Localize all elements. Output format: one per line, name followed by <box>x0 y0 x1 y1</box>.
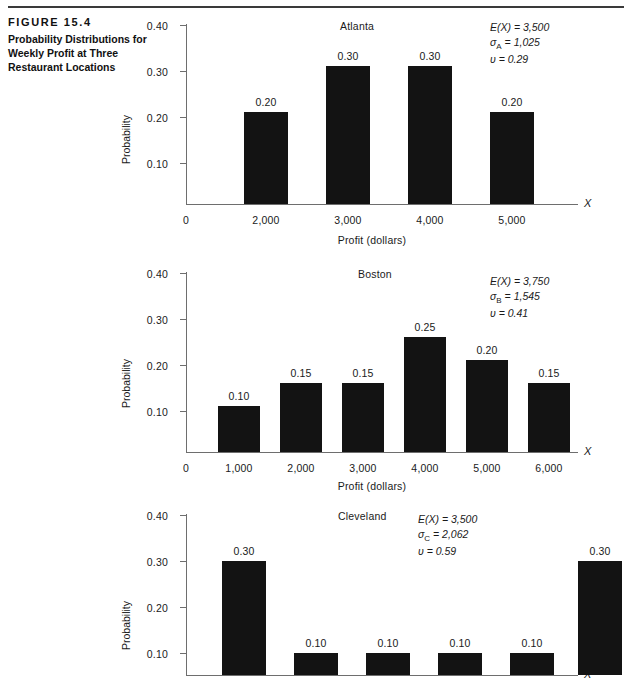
y-tick-020-cleveland: 0.20 <box>134 602 168 614</box>
y-tick-mark-010-boston <box>180 411 186 412</box>
x-tick-boston-1: 2,000 <box>277 462 325 474</box>
chart-title-atlanta: Atlanta <box>340 20 374 32</box>
x-axis-variable-boston: X <box>584 445 591 457</box>
stats-annotation-boston: E(X) = 3,750 σB = 1,545 υ = 0.41 <box>490 274 549 321</box>
x-tick-boston-2: 3,000 <box>339 462 387 474</box>
bar-value-atlanta-1: 0.30 <box>326 50 370 62</box>
bar-value-boston-1: 0.15 <box>280 367 322 379</box>
y-tick-010-atlanta: 0.10 <box>134 158 168 170</box>
x-tick-boston-5: 6,000 <box>525 462 573 474</box>
x-axis-title-atlanta: Profit (dollars) <box>272 234 472 246</box>
bar-cleveland-1 <box>294 653 338 675</box>
y-tick-mark-040-boston <box>180 273 186 274</box>
bar-cleveland-3 <box>438 653 482 675</box>
y-tick-020-boston: 0.20 <box>134 360 168 372</box>
bar-value-cleveland-5: 0.30 <box>578 545 622 557</box>
y-tick-mark-040-cleveland <box>180 515 186 516</box>
bar-cleveland-0 <box>222 561 266 675</box>
cv-boston: υ = 0.41 <box>490 306 549 321</box>
bar-cleveland-4 <box>510 653 554 675</box>
y-axis-title-atlanta: Probability <box>120 115 132 164</box>
x-tick-boston-0: 1,000 <box>215 462 263 474</box>
bar-cleveland-2 <box>366 653 410 675</box>
bar-value-boston-3: 0.25 <box>404 321 446 333</box>
plot-area-boston: Boston E(X) = 3,750 σB = 1,545 υ = 0.41 … <box>112 256 632 494</box>
bar-boston-2000 <box>280 383 322 452</box>
chart-panel-atlanta: Atlanta E(X) = 3,500 σA = 1,025 υ = 0.29… <box>112 14 632 254</box>
x-tick-boston-3: 4,000 <box>401 462 449 474</box>
y-tick-010-boston: 0.10 <box>134 406 168 418</box>
stats-annotation-atlanta: E(X) = 3,500 σA = 1,025 υ = 0.29 <box>490 20 549 67</box>
y-axis-line-cleveland <box>186 514 187 676</box>
expected-value-boston: E(X) = 3,750 <box>490 274 549 289</box>
bar-value-cleveland-0: 0.30 <box>222 545 266 557</box>
sigma-atlanta: σA = 1,025 <box>490 35 549 52</box>
y-tick-mark-040-atlanta <box>180 25 186 26</box>
x-axis-line-atlanta <box>186 204 578 205</box>
chart-panel-boston: Boston E(X) = 3,750 σB = 1,545 υ = 0.41 … <box>112 256 632 494</box>
x-tick-atlanta-1: 3,000 <box>324 214 372 226</box>
y-tick-010-cleveland: 0.10 <box>134 648 168 660</box>
bar-cleveland-5 <box>578 561 622 675</box>
bar-value-boston-5: 0.15 <box>528 367 570 379</box>
expected-value-cleveland: E(X) = 3,500 <box>418 512 477 527</box>
plot-area-cleveland: Cleveland E(X) = 3,500 σC = 2,062 υ = 0.… <box>112 500 632 688</box>
stats-annotation-cleveland: E(X) = 3,500 σC = 2,062 υ = 0.59 <box>418 512 477 559</box>
bar-value-atlanta-0: 0.20 <box>244 96 288 108</box>
y-tick-040-boston: 0.40 <box>134 268 168 280</box>
bar-value-boston-4: 0.20 <box>466 344 508 356</box>
bar-boston-5000 <box>466 360 508 452</box>
bar-boston-1000 <box>218 406 260 452</box>
y-axis-title-boston: Probability <box>120 359 132 408</box>
y-axis-line-atlanta <box>186 24 187 204</box>
bar-boston-3000 <box>342 383 384 452</box>
bar-atlanta-2000 <box>244 112 288 204</box>
bar-atlanta-3000 <box>326 66 370 204</box>
expected-value-atlanta: E(X) = 3,500 <box>490 20 549 35</box>
y-tick-mark-030-boston <box>180 319 186 320</box>
cv-atlanta: υ = 0.29 <box>490 52 549 67</box>
y-tick-mark-010-cleveland <box>180 653 186 654</box>
chart-title-cleveland: Cleveland <box>338 510 387 522</box>
y-tick-mark-010-atlanta <box>180 163 186 164</box>
y-axis-line-boston <box>186 272 187 452</box>
header-rule <box>8 6 624 8</box>
sigma-cleveland: σC = 2,062 <box>418 527 477 544</box>
x-axis-line-cleveland <box>186 675 578 676</box>
bar-atlanta-5000 <box>490 112 534 204</box>
y-tick-040-atlanta: 0.40 <box>134 20 168 32</box>
x-tick-atlanta-2: 4,000 <box>406 214 454 226</box>
bar-value-boston-0: 0.10 <box>218 390 260 402</box>
y-tick-mark-030-cleveland <box>180 561 186 562</box>
x-origin-boston: 0 <box>164 462 208 474</box>
y-tick-030-atlanta: 0.30 <box>134 66 168 78</box>
x-axis-variable-atlanta: X <box>584 197 591 209</box>
y-tick-mark-020-boston <box>180 365 186 366</box>
sigma-boston: σB = 1,545 <box>490 289 549 306</box>
y-tick-020-atlanta: 0.20 <box>134 112 168 124</box>
y-tick-mark-020-atlanta <box>180 117 186 118</box>
bar-value-cleveland-3: 0.10 <box>438 637 482 649</box>
bar-value-boston-2: 0.15 <box>342 367 384 379</box>
bar-value-atlanta-3: 0.20 <box>490 96 534 108</box>
y-tick-040-cleveland: 0.40 <box>134 510 168 522</box>
bar-boston-4000 <box>404 337 446 452</box>
bar-value-cleveland-2: 0.10 <box>366 637 410 649</box>
x-axis-title-boston: Profit (dollars) <box>272 480 472 492</box>
x-tick-boston-4: 5,000 <box>463 462 511 474</box>
x-axis-line-boston <box>186 452 578 453</box>
x-tick-atlanta-0: 2,000 <box>242 214 290 226</box>
y-tick-mark-030-atlanta <box>180 71 186 72</box>
plot-area-atlanta: Atlanta E(X) = 3,500 σA = 1,025 υ = 0.29… <box>112 14 632 254</box>
x-origin-atlanta: 0 <box>164 214 208 226</box>
x-tick-atlanta-3: 5,000 <box>488 214 536 226</box>
bar-value-atlanta-2: 0.30 <box>408 50 452 62</box>
y-tick-mark-020-cleveland <box>180 607 186 608</box>
bar-value-cleveland-4: 0.10 <box>510 637 554 649</box>
y-tick-030-cleveland: 0.30 <box>134 556 168 568</box>
y-tick-030-boston: 0.30 <box>134 314 168 326</box>
bar-boston-6000 <box>528 383 570 452</box>
bar-atlanta-4000 <box>408 66 452 204</box>
chart-panel-cleveland: Cleveland E(X) = 3,500 σC = 2,062 υ = 0.… <box>112 500 632 688</box>
bar-value-cleveland-1: 0.10 <box>294 637 338 649</box>
